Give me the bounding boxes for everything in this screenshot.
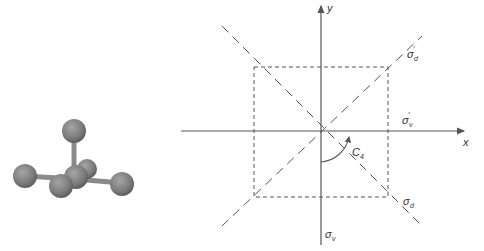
x-axis-label: x bbox=[462, 136, 469, 148]
symmetry-diagram: y x σ d ′ σ v ′ C 4 σ d σ v bbox=[170, 0, 484, 251]
c4-rotation-arrow bbox=[321, 137, 349, 162]
molecule-model bbox=[0, 80, 160, 210]
svg-text:′: ′ bbox=[408, 110, 410, 119]
svg-text:v: v bbox=[409, 121, 413, 128]
c4-label: C 4 bbox=[352, 146, 364, 160]
svg-text:d: d bbox=[410, 202, 415, 209]
svg-text:v: v bbox=[332, 235, 336, 242]
svg-text:σ: σ bbox=[325, 228, 332, 240]
sigma-v-label: σ v bbox=[325, 228, 336, 242]
sigma-d-prime-label: σ d ′ bbox=[407, 44, 419, 62]
svg-text:d: d bbox=[414, 55, 419, 62]
svg-text:C: C bbox=[352, 146, 360, 158]
atom-front bbox=[49, 174, 73, 198]
atom-right bbox=[110, 172, 134, 196]
sigma-v-prime-label: σ v ′ bbox=[402, 110, 413, 128]
svg-text:′: ′ bbox=[413, 44, 415, 53]
atom-left bbox=[13, 164, 37, 188]
svg-text:4: 4 bbox=[360, 153, 364, 160]
sigma-d-label: σ d bbox=[403, 195, 415, 209]
y-axis-label: y bbox=[326, 2, 334, 14]
svg-text:σ: σ bbox=[403, 195, 410, 207]
atom-top bbox=[62, 119, 86, 143]
sigma-d-plane bbox=[222, 26, 422, 226]
